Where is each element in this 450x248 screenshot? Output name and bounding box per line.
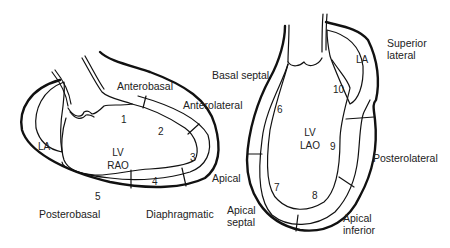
lao-valve bbox=[288, 58, 322, 66]
rao-divider-3-4 bbox=[182, 168, 186, 186]
lao-aorta-right bbox=[322, 14, 323, 52]
segment-2: 2 bbox=[158, 126, 164, 137]
segment-7: 7 bbox=[274, 182, 280, 193]
rao-divider-2-3 bbox=[188, 124, 199, 134]
lao-divider-inferior bbox=[339, 177, 354, 187]
segment-9: 9 bbox=[330, 141, 336, 152]
segment-6: 6 bbox=[277, 104, 283, 115]
rao-lv-label: LV bbox=[106, 147, 130, 158]
label-apical-inferior-line2: inferior bbox=[343, 224, 375, 236]
rao-aorta-left2 bbox=[55, 70, 71, 104]
label-anterobasal: Anterobasal bbox=[117, 80, 173, 92]
label-apical: Apical bbox=[212, 172, 241, 184]
label-anterolateral: Anterolateral bbox=[183, 99, 243, 111]
label-posterobasal: Posterobasal bbox=[39, 208, 100, 220]
label-apical-inferior-line1: Apical bbox=[343, 212, 372, 224]
label-posterolateral: Posterolateral bbox=[373, 152, 438, 164]
label-basal-septal: Basal septal bbox=[212, 69, 269, 81]
label-apical-septal-line1: Apical bbox=[227, 204, 256, 216]
rao-la-label: LA bbox=[38, 141, 50, 152]
lao-la-label: LA bbox=[356, 54, 368, 65]
label-superior-lateral-line1: Superior bbox=[387, 37, 427, 49]
segment-4: 4 bbox=[152, 176, 158, 187]
segment-5: 5 bbox=[95, 191, 101, 202]
label-apical-septal-line2: septal bbox=[227, 216, 255, 228]
rao-view-label: RAO bbox=[104, 160, 132, 171]
lao-aorta-left bbox=[288, 25, 289, 62]
lao-divider-posterolateral bbox=[346, 117, 374, 119]
lv-segment-diagram: Anterobasal Anterolateral Apical Diaphra… bbox=[0, 0, 450, 248]
lao-view-label: LAO bbox=[296, 140, 324, 151]
rao-aorta-right2 bbox=[85, 56, 104, 89]
segment-8: 8 bbox=[312, 190, 318, 201]
segment-3: 3 bbox=[190, 152, 196, 163]
label-superior-lateral-line2: lateral bbox=[387, 49, 416, 61]
label-diaphragmatic: Diaphragmatic bbox=[146, 208, 214, 220]
segment-1: 1 bbox=[121, 114, 127, 125]
segment-10: 10 bbox=[333, 84, 344, 95]
lao-lv-label: LV bbox=[298, 127, 322, 138]
